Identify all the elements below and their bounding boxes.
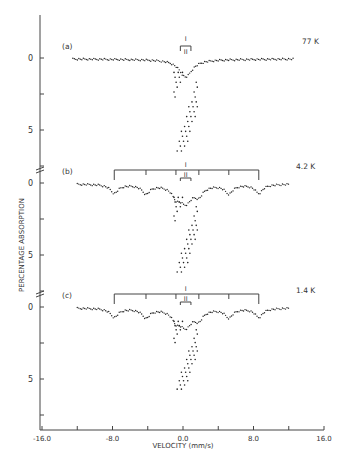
x-axis-label: VELOCITY (mm/s) <box>152 442 213 450</box>
x-tick-label: -8.0 <box>106 435 120 443</box>
svg-text:0: 0 <box>28 179 33 188</box>
y-axis-label: PERCENTAGE ABSORPTION <box>18 198 26 292</box>
temperature-label: 4.2 K <box>296 162 316 171</box>
temperature-label: 1.4 K <box>296 286 316 295</box>
svg-text:5: 5 <box>28 126 33 135</box>
panel-a: 05(a)77 KIII <box>28 35 320 166</box>
svg-text:5: 5 <box>28 251 33 260</box>
svg-text:0: 0 <box>28 303 33 312</box>
panel-b: 05(b)4.2 KIII <box>28 161 316 291</box>
x-tick-label: 8.0 <box>248 435 259 443</box>
x-tick-label: 16.0 <box>316 435 332 443</box>
panel-label: (c) <box>62 291 72 300</box>
temperature-label: 77 K <box>302 37 320 46</box>
axes: -16.0-8.00.08.016.0 <box>33 15 332 443</box>
panel-label: (b) <box>62 167 73 176</box>
mossbauer-chart: -16.0-8.00.08.016.0 05(a)77 KIII05(b)4.2… <box>0 0 348 463</box>
panel-c: 05(c)1.4 KIII <box>28 285 316 415</box>
svg-text:I: I <box>185 161 187 169</box>
panel-label: (a) <box>62 42 73 51</box>
svg-text:II: II <box>184 171 188 179</box>
svg-text:5: 5 <box>28 375 33 384</box>
x-tick-label: -16.0 <box>33 435 51 443</box>
svg-text:II: II <box>184 295 188 303</box>
svg-text:0: 0 <box>28 54 33 63</box>
svg-text:II: II <box>184 48 188 56</box>
svg-text:I: I <box>185 35 187 43</box>
panels: 05(a)77 KIII05(b)4.2 KIII05(c)1.4 KIII <box>28 35 320 415</box>
svg-text:I: I <box>185 285 187 293</box>
